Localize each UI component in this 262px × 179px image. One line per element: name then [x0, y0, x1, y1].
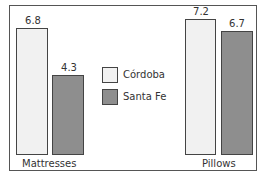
value-label-pillows-santa-fe: 6.7 [217, 18, 257, 29]
value-label-pillows-cordoba: 7.2 [181, 6, 221, 17]
bar-mattresses-santa-fe [52, 75, 84, 155]
legend-swatch-santa-fe [102, 89, 118, 105]
bar-pillows-cordoba [185, 19, 216, 155]
value-label-mattresses-santa-fe: 4.3 [49, 62, 89, 73]
legend-swatch-cordoba [102, 67, 118, 83]
category-label-pillows: Pillows [202, 158, 236, 169]
bar-pillows-santa-fe [221, 31, 253, 155]
bar-mattresses-cordoba [16, 28, 48, 155]
legend-label-cordoba: Córdoba [123, 69, 165, 80]
category-label-mattresses: Mattresses [22, 158, 76, 169]
value-label-mattresses-cordoba: 6.8 [13, 15, 53, 26]
legend-label-santa-fe: Santa Fe [123, 91, 166, 102]
